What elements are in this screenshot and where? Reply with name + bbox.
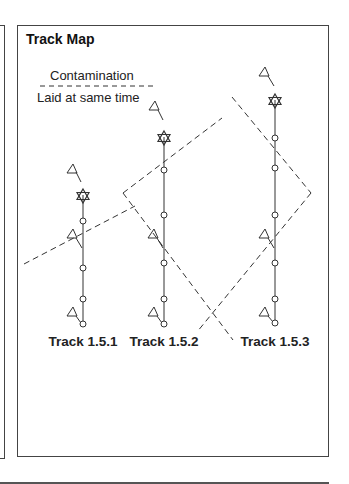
contamination-lines	[24, 97, 311, 340]
flag-icon	[67, 164, 77, 173]
dashed-line-diamond-bl	[123, 193, 233, 340]
dashed-line-diamond-tl	[123, 118, 222, 193]
flag-icon	[259, 307, 269, 316]
dashed-line-left	[24, 206, 135, 264]
flag-icon	[149, 101, 159, 110]
track-label-1: Track 1.5.1	[48, 334, 118, 349]
track-1-5-1	[67, 164, 89, 327]
flag-icon	[148, 307, 158, 316]
legend: Contamination Laid at same time	[37, 68, 155, 105]
flag-icon	[259, 229, 269, 238]
track-1-5-3	[259, 67, 281, 326]
dashed-line-diamond-tr	[232, 97, 311, 193]
flag-icon	[67, 307, 77, 316]
track-1-5-2	[148, 101, 170, 327]
track-label-3: Track 1.5.3	[240, 334, 310, 349]
flag-icon	[67, 229, 77, 238]
track-map-diagram: Contamination Laid at same time	[0, 0, 349, 484]
legend-contamination: Contamination	[50, 68, 134, 83]
dashed-line-diamond-br	[197, 193, 311, 332]
flag-icon	[259, 67, 269, 76]
legend-laid-same-time: Laid at same time	[37, 90, 140, 105]
track-label-2: Track 1.5.2	[129, 334, 198, 349]
